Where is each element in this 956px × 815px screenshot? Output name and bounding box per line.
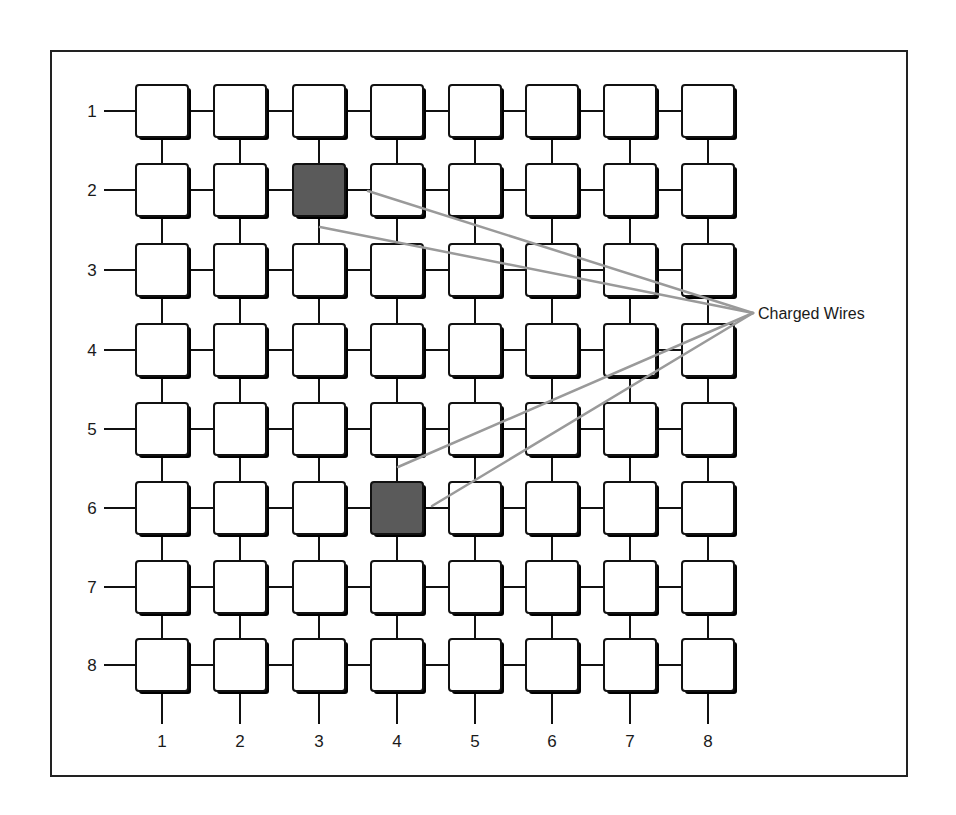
crosspoint-cell [214, 403, 269, 458]
crosspoint-cell [371, 244, 426, 299]
crosspoint-cell [449, 639, 504, 694]
crosspoint-cell [604, 561, 659, 616]
crosspoint-cell [604, 403, 659, 458]
crosspoint-cell [293, 639, 348, 694]
crosspoint-cell [449, 561, 504, 616]
crosspoint-cell [214, 324, 269, 379]
crosspoint-cell [214, 482, 269, 537]
crosspoint-cell [214, 164, 269, 219]
crosspoint-cell [214, 85, 269, 140]
crosspoint-cell [604, 324, 659, 379]
grid-cells [136, 85, 737, 694]
crosspoint-cell [293, 85, 348, 140]
crosspoint-cell [604, 244, 659, 299]
crosspoint-cell [604, 164, 659, 219]
crosspoint-cell [136, 324, 191, 379]
crosspoint-cell [526, 561, 581, 616]
row-label: 7 [87, 578, 96, 597]
crosspoint-cell [526, 244, 581, 299]
crosspoint-cell [682, 639, 737, 694]
crosspoint-cell [371, 639, 426, 694]
crosspoint-cell [526, 164, 581, 219]
row-label: 3 [87, 261, 96, 280]
crosspoint-cell [526, 324, 581, 379]
crosspoint-cell-selected [371, 482, 426, 537]
column-label: 5 [470, 732, 479, 751]
crosspoint-cell [136, 639, 191, 694]
column-label: 1 [157, 732, 166, 751]
row-label: 5 [87, 420, 96, 439]
crosspoint-cell [371, 561, 426, 616]
crosspoint-cell [136, 482, 191, 537]
crosspoint-cell [449, 403, 504, 458]
crosspoint-cell [526, 482, 581, 537]
crosspoint-cell-selected [293, 164, 348, 219]
crosspoint-cell [371, 85, 426, 140]
column-label: 4 [392, 732, 401, 751]
row-label: 1 [87, 102, 96, 121]
crosspoint-cell [293, 244, 348, 299]
crosspoint-cell [371, 403, 426, 458]
crosspoint-cell [604, 482, 659, 537]
crosspoint-cell [682, 561, 737, 616]
column-label: 8 [703, 732, 712, 751]
crosspoint-cell [371, 324, 426, 379]
crosspoint-cell [526, 403, 581, 458]
crosspoint-cell [136, 561, 191, 616]
crosspoint-cell [214, 561, 269, 616]
crosspoint-cell [526, 85, 581, 140]
crosspoint-grid-diagram: 12345678 12345678 Charged Wires [0, 0, 956, 815]
crosspoint-cell [371, 164, 426, 219]
column-label: 6 [547, 732, 556, 751]
crosspoint-cell [682, 164, 737, 219]
column-label: 7 [625, 732, 634, 751]
crosspoint-cell [214, 244, 269, 299]
crosspoint-cell [136, 244, 191, 299]
crosspoint-cell [449, 164, 504, 219]
crosspoint-cell [682, 403, 737, 458]
crosspoint-cell [214, 639, 269, 694]
row-label: 6 [87, 499, 96, 518]
crosspoint-cell [136, 164, 191, 219]
crosspoint-cell [293, 324, 348, 379]
column-labels: 12345678 [157, 732, 712, 751]
crosspoint-cell [682, 482, 737, 537]
crosspoint-cell [449, 244, 504, 299]
column-label: 2 [235, 732, 244, 751]
charged-wires-label: Charged Wires [758, 305, 865, 322]
crosspoint-cell [449, 324, 504, 379]
crosspoint-cell [293, 403, 348, 458]
crosspoint-cell [449, 85, 504, 140]
crosspoint-cell [604, 85, 659, 140]
crosspoint-cell [526, 639, 581, 694]
row-label: 8 [87, 656, 96, 675]
crosspoint-cell [604, 639, 659, 694]
crosspoint-cell [136, 403, 191, 458]
row-label: 4 [87, 341, 96, 360]
crosspoint-cell [293, 482, 348, 537]
diagram-stage: 12345678 12345678 Charged Wires [0, 0, 956, 815]
crosspoint-cell [682, 85, 737, 140]
crosspoint-cell [136, 85, 191, 140]
row-label: 2 [87, 181, 96, 200]
column-label: 3 [314, 732, 323, 751]
crosspoint-cell [682, 244, 737, 299]
row-labels: 12345678 [87, 102, 96, 675]
crosspoint-cell [293, 561, 348, 616]
